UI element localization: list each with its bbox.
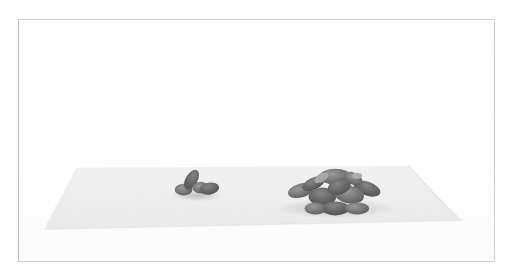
photo-frame — [18, 19, 495, 262]
woven-mat — [45, 166, 462, 229]
photo-scene — [19, 20, 494, 261]
